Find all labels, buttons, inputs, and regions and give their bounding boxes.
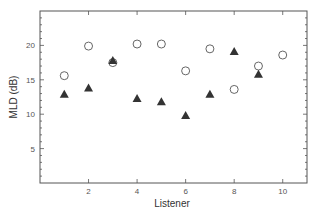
data-points	[60, 40, 287, 119]
circle-marker	[60, 72, 68, 80]
circle-marker	[279, 51, 287, 59]
circle-marker	[254, 62, 262, 70]
triangle-marker	[157, 97, 166, 105]
circle-marker	[133, 40, 141, 48]
x-tick-label: 4	[135, 187, 140, 196]
y-tick-label: 5	[31, 145, 36, 154]
x-tick-label: 8	[232, 187, 237, 196]
circle-marker	[157, 40, 165, 48]
scatter-chart: 5101520 246810 Listener MLD (dB)	[0, 0, 320, 219]
circle-marker	[230, 85, 238, 93]
x-tick-label: 6	[183, 187, 188, 196]
x-axis-ticks: 246810	[86, 11, 287, 196]
triangle-marker	[230, 47, 239, 55]
circle-marker	[85, 42, 93, 50]
y-tick-label: 15	[26, 76, 35, 85]
plot-frame	[40, 11, 307, 183]
x-tick-label: 2	[86, 187, 91, 196]
triangle-marker	[60, 90, 69, 98]
triangle-marker	[181, 111, 190, 119]
triangle-marker	[133, 94, 142, 102]
x-tick-label: 10	[278, 187, 287, 196]
x-axis-title: Listener	[154, 198, 190, 209]
y-tick-label: 10	[26, 110, 35, 119]
circle-marker	[206, 45, 214, 53]
triangle-marker	[84, 84, 93, 92]
triangle-marker	[205, 90, 214, 98]
circle-marker	[182, 67, 190, 75]
y-axis-title: MLD (dB)	[8, 76, 19, 119]
triangle-marker	[254, 70, 263, 78]
y-tick-label: 20	[26, 41, 35, 50]
